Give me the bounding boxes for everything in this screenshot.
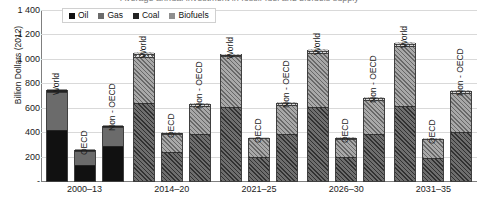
- bar-2000-13-NonOECD[interactable]: [102, 126, 124, 182]
- bar-label-OECD: OECD: [340, 119, 350, 144]
- x-axis-category-label: 2031–35: [390, 184, 477, 194]
- bar-label-World: World: [51, 73, 61, 95]
- bar-2026-30-OECD[interactable]: [335, 138, 357, 182]
- y-axis-tick-label: 1 200: [17, 29, 40, 39]
- bar-label-World: World: [138, 36, 148, 58]
- bar-segment-gas: [190, 106, 210, 134]
- x-axis-category-label: 2014–20: [128, 184, 215, 194]
- bar-segment-gas: [221, 56, 241, 107]
- bar-2031-35-OECD[interactable]: [422, 139, 444, 182]
- bar-segment-gas: [308, 53, 328, 107]
- bar-2021-25-World[interactable]: [220, 54, 242, 182]
- bar-label-NonOECD: Non - OECD: [368, 55, 378, 103]
- bar-2000-13-World[interactable]: [46, 90, 68, 182]
- bar-segment-gas: [364, 100, 384, 134]
- bar-segment-oil: [103, 146, 123, 181]
- bar-segment-oil: [47, 130, 67, 181]
- bar-label-NonOECD: Non - OECD: [194, 61, 204, 109]
- y-axis-tick-label: 1 000: [17, 54, 40, 64]
- legend-item-oil[interactable]: Oil: [69, 11, 88, 20]
- bar-segment-oil: [134, 103, 154, 181]
- chart-legend: OilGasCoalBiofuels: [62, 8, 216, 23]
- bar-label-OECD: OECD: [253, 118, 263, 143]
- bar-segment-oil: [308, 107, 328, 182]
- bar-2026-30-World[interactable]: [307, 50, 329, 182]
- bar-2031-35-NonOECD[interactable]: [450, 91, 472, 182]
- bar-segment-oil: [395, 106, 415, 181]
- y-axis-tick-label: 400: [25, 127, 40, 137]
- bar-segment-oil: [221, 107, 241, 181]
- bar-segment-gas: [277, 105, 297, 134]
- bar-segment-oil: [364, 134, 384, 181]
- chart-title-text: Average annual investment in fossil-fuel…: [0, 0, 479, 3]
- legend-item-gas[interactable]: Gas: [98, 11, 123, 20]
- bar-segment-gas: [47, 92, 67, 129]
- legend-label: Biofuels: [178, 11, 208, 20]
- bar-2014-20-NonOECD[interactable]: [189, 104, 211, 182]
- bar-label-OECD: OECD: [427, 119, 437, 144]
- legend-swatch-oil-icon: [69, 13, 75, 19]
- bar-segment-oil: [423, 158, 443, 181]
- bar-segment-oil: [75, 165, 95, 181]
- legend-item-biofuels[interactable]: Biofuels: [169, 11, 208, 20]
- bar-2021-25-NonOECD[interactable]: [276, 103, 298, 182]
- y-axis-tick-label: 200: [25, 152, 40, 162]
- bar-segment-oil: [190, 134, 210, 181]
- legend-label: Gas: [107, 11, 123, 20]
- bar-2026-30-NonOECD[interactable]: [363, 98, 385, 182]
- y-axis-tick-label: -: [37, 176, 40, 186]
- bar-2021-25-OECD[interactable]: [248, 138, 270, 182]
- legend-label: Oil: [78, 11, 88, 20]
- plot-area: WorldOECDNon - OECDWorldOECDNon - OECDWo…: [41, 10, 477, 182]
- legend-swatch-gas-icon: [98, 13, 104, 19]
- legend-label: Coal: [142, 11, 159, 20]
- bar-label-NonOECD: Non - OECD: [107, 83, 117, 131]
- chart-title-clipped: Average annual investment in fossil-fuel…: [0, 0, 479, 7]
- bar-segment-gas: [395, 46, 415, 106]
- bar-label-World: World: [399, 26, 409, 48]
- y-axis-ticks: -2004006008001 0001 2001 400: [0, 0, 40, 203]
- bar-segment-oil: [277, 134, 297, 181]
- gridline: [41, 34, 477, 35]
- bar-label-NonOECD: Non - OECD: [281, 60, 291, 108]
- bar-segment-oil: [162, 152, 182, 181]
- y-axis-tick-label: 1 400: [17, 5, 40, 15]
- bar-2014-20-World[interactable]: [133, 53, 155, 182]
- chart-container: Average annual investment in fossil-fuel…: [0, 0, 479, 203]
- bar-segment-gas: [451, 93, 471, 132]
- legend-item-coal[interactable]: Coal: [133, 11, 159, 20]
- bar-label-World: World: [225, 37, 235, 59]
- x-axis-category-label: 2021–25: [215, 184, 302, 194]
- bar-segment-oil: [249, 157, 269, 181]
- bar-label-NonOECD: Non - OECD: [455, 48, 465, 96]
- bar-label-World: World: [312, 33, 322, 55]
- legend-swatch-coal-icon: [133, 13, 139, 19]
- bar-label-OECD: OECD: [79, 130, 89, 155]
- bar-2014-20-OECD[interactable]: [161, 133, 183, 182]
- legend-swatch-biofuels-icon: [169, 13, 175, 19]
- bar-segment-oil: [336, 157, 356, 181]
- bar-2031-35-World[interactable]: [394, 43, 416, 182]
- y-axis-tick-label: 800: [25, 78, 40, 88]
- bar-label-OECD: OECD: [166, 114, 176, 139]
- bar-segment-gas: [134, 57, 154, 103]
- bar-segment-oil: [451, 132, 471, 181]
- y-axis-tick-label: 600: [25, 103, 40, 113]
- x-axis-category-label: 2000–13: [41, 184, 128, 194]
- x-axis-category-label: 2026–30: [303, 184, 390, 194]
